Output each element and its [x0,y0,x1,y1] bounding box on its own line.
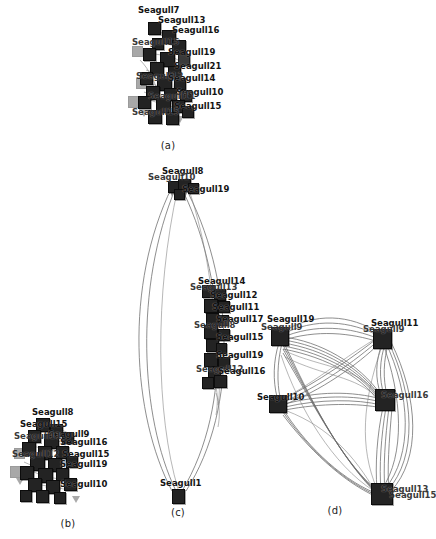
node-label: Seagull19 [168,48,215,57]
node-label: Seagull15 [20,420,67,429]
node-label: Seagull12 [210,291,257,300]
node-label: Seagull11 [212,303,259,312]
node-label-seagull9: Seagull9 [261,323,303,332]
panel-d-graph: Seagull19 Seagull9 Seagull11 Seagull9 Se… [255,305,431,539]
node-label: Seagull21 [174,62,221,71]
graph-node[interactable] [132,46,143,57]
graph-node[interactable] [143,48,156,61]
node-label: Seagull10 [60,480,107,489]
node-label: Seagull7 [138,6,180,15]
node-label: Seagull11 [14,432,61,441]
node-label: Seagull15 [174,102,221,111]
panel-caption-d: (d) [315,505,355,516]
node-label: Seagull16 [60,438,107,447]
node-label: Seagull8 [32,408,74,417]
node-label-seagull16: Seagull16 [381,391,428,400]
node-label: Seagull11 [148,92,195,101]
panel-a-graph: Seagull7 Seagull13 Seagull16 Seagull15 S… [110,0,260,160]
node-label: Seagull16 [172,26,219,35]
graph-node[interactable] [214,375,227,388]
node-label: Seagull19 [60,460,107,469]
panel-caption-c: (c) [158,507,198,518]
node-label: Seagull12 [12,450,59,459]
node-label: Seagull13 [158,16,205,25]
node-label-seagull10: Seagull10 [257,393,304,402]
node-label: Seagull15 [132,38,179,47]
node-label-seagull9b: Seagull9 [363,325,405,334]
panel-b-graph: Seagull8 Seagull15 Seagull9 Seagull16 Se… [0,400,140,539]
panel-caption-b: (b) [48,518,88,529]
graph-node[interactable] [202,377,214,389]
node-label: Seagull19 [182,185,229,194]
node-label: Seagull1 [160,479,202,488]
graph-node[interactable] [36,490,49,503]
node-label: Seagull15 [62,450,109,459]
graph-node[interactable] [172,489,185,504]
graph-node[interactable] [20,490,32,502]
node-label-seagull15: Seagull15 [389,491,436,500]
graph-node-marker[interactable] [72,496,80,503]
node-label: Seagull15 [132,108,179,117]
node-label: Seagull14 [168,74,215,83]
node-label: Seagull10 [148,173,195,182]
graph-node[interactable] [54,492,66,504]
panel-caption-a: (a) [148,140,188,151]
node-label: Seagull8 [194,321,236,330]
